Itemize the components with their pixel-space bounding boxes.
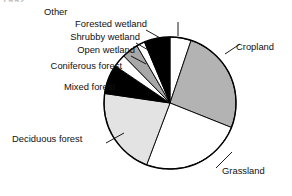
label-deciduous-forest: Deciduous forest (12, 134, 82, 144)
label-cropland: Cropland (236, 42, 274, 52)
label-coniferous-forest: Coniferous forest (51, 61, 122, 71)
label-other: Other (44, 7, 67, 17)
label-shrubby-wetland: Shrubby wetland (70, 32, 140, 42)
label-grassland: Grassland (222, 166, 265, 176)
leader-line-forested-wetland (146, 30, 162, 39)
label-open-wetland: Open wetland (77, 45, 135, 55)
label-mixed-forest: Mixed forest (64, 82, 115, 92)
pie-chart-figure: 1992 Other Forested wetland Shrubby wetl… (0, 0, 292, 196)
label-forested-wetland: Forested wetland (75, 19, 147, 29)
